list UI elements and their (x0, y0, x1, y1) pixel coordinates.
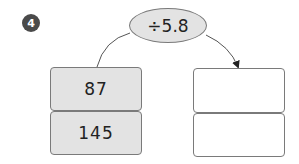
output-arrow (206, 35, 238, 67)
problem-number-badge: 4 (22, 14, 40, 32)
division-diagram: 4 ÷5.8 87 145 (0, 0, 299, 164)
input-box-1: 87 (50, 67, 142, 111)
answer-box-2[interactable] (193, 113, 285, 157)
input-box-2: 145 (50, 111, 142, 155)
input-connector-arc (97, 33, 130, 67)
operation-ellipse: ÷5.8 (129, 8, 207, 43)
answer-box-1[interactable] (193, 68, 285, 113)
